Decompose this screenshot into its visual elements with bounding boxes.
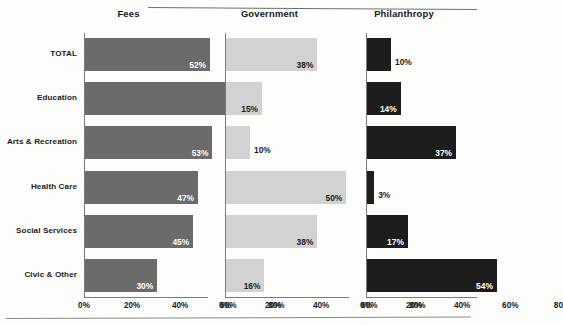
panel-title: Government xyxy=(205,8,334,19)
bar-row: 37% xyxy=(366,121,477,165)
bar: 38% xyxy=(226,38,317,71)
bar-value-label: 17% xyxy=(387,237,404,247)
x-tick-label: 0% xyxy=(219,301,231,310)
bar: 45% xyxy=(85,215,193,248)
bar-row: 54% xyxy=(366,254,477,298)
x-tick-label: 0% xyxy=(360,301,372,310)
bar xyxy=(226,126,250,159)
bar: 47% xyxy=(85,171,198,204)
bar xyxy=(367,38,391,71)
bar-value-label: 10% xyxy=(395,57,412,78)
bar-value-label: 38% xyxy=(297,237,314,247)
bar: 15% xyxy=(226,82,262,115)
bar: 37% xyxy=(367,126,456,159)
panel-plot-area: 10%14%37%3%17%54%0%20%40%60%80 xyxy=(366,33,477,298)
x-tick-label: 40% xyxy=(454,301,470,310)
panel-title: Philanthropy xyxy=(346,8,462,19)
x-tick-label: 20% xyxy=(406,301,422,310)
bar: 54% xyxy=(367,259,497,292)
bar-value-label: 16% xyxy=(244,281,261,291)
bar-value-label: 15% xyxy=(241,104,258,114)
bar-value-label: 3% xyxy=(378,190,390,211)
bar-row: 3% xyxy=(366,166,477,210)
x-tick-label: 80 xyxy=(554,301,563,310)
chart-panel: Philanthropy10%14%37%3%17%54%0%20%40%60%… xyxy=(326,0,477,325)
x-tick-label: 60% xyxy=(502,301,518,310)
bar: 30% xyxy=(85,259,157,292)
bar-value-label: 38% xyxy=(297,60,314,70)
bar-value-label: 30% xyxy=(136,281,153,291)
bar-value-label: 14% xyxy=(380,104,397,114)
bar xyxy=(367,171,374,204)
x-axis-ticks: 0%20%40%60%80 xyxy=(366,301,477,315)
bar-row: 14% xyxy=(366,77,477,121)
x-tick-label: 0% xyxy=(78,301,90,310)
bar-row: 17% xyxy=(366,210,477,254)
bar-value-label: 37% xyxy=(435,148,452,158)
chart-panel: Fees52%72%53%47%45%30%0%20%40%60%80% xyxy=(44,0,208,325)
x-tick-label: 20% xyxy=(265,301,281,310)
chart-panel: Government38%15%10%50%38%16%0%20%40%60%8… xyxy=(185,0,349,325)
bar-row: 10% xyxy=(366,33,477,77)
bar-value-label: 54% xyxy=(476,281,493,291)
panel-title: Fees xyxy=(64,8,193,19)
bar: 17% xyxy=(367,215,408,248)
bar: 38% xyxy=(226,215,317,248)
bar-value-label: 10% xyxy=(254,145,271,166)
x-tick-label: 20% xyxy=(124,301,140,310)
bar: 16% xyxy=(226,259,264,292)
bar: 14% xyxy=(367,82,401,115)
